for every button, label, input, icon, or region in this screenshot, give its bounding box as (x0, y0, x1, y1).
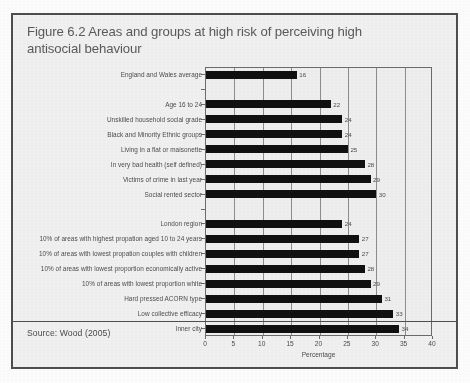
bar (206, 71, 297, 79)
chart-row: 10% of areas with lowest propation coupl… (13, 246, 456, 261)
category-label: Low collective efficacy (0, 306, 202, 321)
x-axis-title: Percentage (205, 351, 432, 358)
bar (206, 250, 359, 258)
chart-row: Unskilled household social grade24 (13, 112, 456, 127)
category-label: Unskilled household social grade (0, 112, 202, 127)
chart-row: England and Wales average16 (13, 67, 456, 82)
bar-value-label: 33 (396, 306, 403, 321)
chart-row: Age 16 to 2422 (13, 97, 456, 112)
category-label: 10% of areas with lowest propation coupl… (0, 246, 202, 261)
x-axis-tick-label: 30 (372, 340, 379, 347)
figure-container: Figure 6.2 Areas and groups at high risk… (11, 13, 458, 369)
category-label: Hard pressed ACORN type (0, 291, 202, 306)
bar-value-label: 27 (362, 246, 369, 261)
category-label: Living in a flat or maisonette (0, 142, 202, 157)
category-label: London region (0, 216, 202, 231)
chart-rows: England and Wales average16Age 16 to 242… (13, 67, 456, 336)
x-axis-tick (347, 336, 348, 339)
x-axis-tick (290, 336, 291, 339)
bar-value-label: 30 (379, 187, 386, 202)
bar (206, 175, 371, 183)
category-label: 10% of areas with highest propation aged… (0, 231, 202, 246)
bar (206, 190, 376, 198)
bar-value-label: 24 (345, 112, 352, 127)
chart-row: 10% of areas with lowest proportion econ… (13, 261, 456, 276)
x-axis: 0510152025303540 (205, 336, 432, 340)
bar-value-label: 28 (367, 157, 374, 172)
chart-row: London region24 (13, 216, 456, 231)
bar-value-label: 24 (345, 127, 352, 142)
bar (206, 160, 365, 168)
bar-value-label: 28 (367, 261, 374, 276)
chart-row: 10% of areas with lowest proportion whit… (13, 276, 456, 291)
bar (206, 100, 331, 108)
scanned-page: Figure 6.2 Areas and groups at high risk… (0, 0, 470, 383)
category-label: England and Wales average (0, 67, 202, 82)
bar (206, 145, 348, 153)
chart-row: Black and Minority Ethnic groups24 (13, 127, 456, 142)
category-label: Social rented sector (0, 187, 202, 202)
bar-value-label: 29 (373, 172, 380, 187)
chart-row: Hard pressed ACORN type31 (13, 291, 456, 306)
source-divider (13, 321, 456, 322)
x-axis-tick-label: 25 (343, 340, 350, 347)
x-axis-tick (404, 336, 405, 339)
category-label: Age 16 to 24 (0, 97, 202, 112)
bar-value-label: 16 (299, 67, 306, 82)
bar (206, 280, 371, 288)
category-label: Black and Minority Ethnic groups (0, 127, 202, 142)
bar-value-label: 34 (401, 321, 408, 336)
x-axis-tick (233, 336, 234, 339)
category-label: 10% of areas with lowest proportion econ… (0, 261, 202, 276)
bar-value-label: 31 (384, 291, 391, 306)
bar-value-label: 29 (373, 276, 380, 291)
bar (206, 220, 342, 228)
x-axis-tick-label: 5 (232, 340, 236, 347)
bar (206, 265, 365, 273)
chart-row: Low collective efficacy33 (13, 306, 456, 321)
chart-row: Victims of crime in last year29 (13, 172, 456, 187)
chart-row: Social rented sector30 (13, 187, 456, 202)
y-axis-tick (201, 89, 205, 90)
x-axis-tick-label: 20 (315, 340, 322, 347)
x-axis-tick (205, 336, 206, 339)
y-axis-tick (201, 209, 205, 210)
x-axis-tick (375, 336, 376, 339)
category-label: Victims of crime in last year (0, 172, 202, 187)
x-axis-tick (319, 336, 320, 339)
chart-row: 10% of areas with highest propation aged… (13, 231, 456, 246)
bar-value-label: 22 (333, 97, 340, 112)
x-axis-tick (432, 336, 433, 339)
bar (206, 310, 393, 318)
x-axis-tick-label: 35 (400, 340, 407, 347)
category-label: In very bad health (self defined) (0, 157, 202, 172)
x-axis-tick-label: 15 (286, 340, 293, 347)
x-axis-tick-label: 10 (258, 340, 265, 347)
category-label: 10% of areas with lowest proportion whit… (0, 276, 202, 291)
bar (206, 235, 359, 243)
bar-value-label: 24 (345, 216, 352, 231)
bar-value-label: 27 (362, 231, 369, 246)
x-axis-tick-label: 0 (203, 340, 207, 347)
bar (206, 295, 382, 303)
x-axis-tick (262, 336, 263, 339)
source-note: Source: Wood (2005) (27, 328, 110, 338)
bar-chart: England and Wales average16Age 16 to 242… (13, 63, 456, 363)
x-axis-tick-label: 40 (428, 340, 435, 347)
bar (206, 130, 342, 138)
chart-row-spacer (13, 202, 456, 217)
bar-value-label: 25 (350, 142, 357, 157)
chart-row-spacer (13, 82, 456, 97)
bar (206, 325, 399, 333)
bar (206, 115, 342, 123)
chart-row: In very bad health (self defined)28 (13, 157, 456, 172)
chart-row: Living in a flat or maisonette25 (13, 142, 456, 157)
figure-title: Figure 6.2 Areas and groups at high risk… (27, 23, 412, 57)
